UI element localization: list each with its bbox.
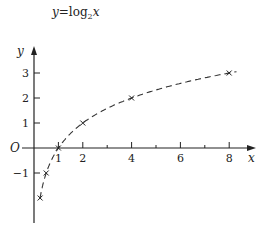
origin-label: O xyxy=(10,141,20,155)
x-tick-label: 1 xyxy=(55,152,62,165)
y-axis-label: y xyxy=(16,44,24,58)
log-chart: y=log2x y x O 12468321−1 xyxy=(0,0,271,238)
axes xyxy=(22,52,250,223)
point-marker-icon xyxy=(129,96,134,101)
y-tick-label: 2 xyxy=(22,92,29,105)
x-tick-label: 6 xyxy=(177,152,184,165)
x-axis-label: x xyxy=(248,151,255,165)
point-marker-icon xyxy=(80,121,85,126)
title-eq: =log xyxy=(59,5,88,19)
y-tick-label: −1 xyxy=(13,167,29,180)
x-tick-label: 8 xyxy=(226,152,233,165)
y-tick-label: 3 xyxy=(22,67,29,80)
y-axis-arrow-icon xyxy=(31,46,37,55)
chart-title: y=log2x xyxy=(51,5,100,21)
x-tick-label: 2 xyxy=(79,152,86,165)
y-tick-label: 1 xyxy=(22,117,29,130)
x-tick-label: 4 xyxy=(128,152,135,165)
log-curve xyxy=(40,72,236,198)
point-markers xyxy=(38,71,232,201)
ticks: 12468321−1 xyxy=(13,67,233,180)
title-x: x xyxy=(93,5,100,19)
